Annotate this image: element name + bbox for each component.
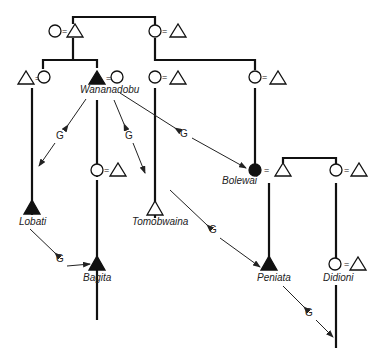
name-label-peniata: Peniata xyxy=(257,272,291,283)
arrow-line xyxy=(120,93,175,128)
couple-gen3-center: = xyxy=(91,163,126,176)
g-label: G xyxy=(180,128,188,139)
marriage-sign: = xyxy=(162,72,167,82)
couple-gen2-left: = xyxy=(18,71,50,84)
person-tomobwaina: Tomobwaina xyxy=(132,201,189,227)
female-circle-icon xyxy=(91,164,103,176)
female-circle-icon xyxy=(111,71,123,83)
g-link-wananadobu-tomobwaina: G xyxy=(114,100,145,173)
male-triangle-icon xyxy=(67,24,83,37)
kinship-diagram: = = = = Wananadobu = = xyxy=(0,0,387,361)
name-label-didioni: Didioni xyxy=(323,272,354,283)
sibling-line xyxy=(43,60,97,69)
female-circle-icon xyxy=(38,71,50,83)
female-circle-icon xyxy=(330,164,342,176)
person-bolewai: = Bolewai xyxy=(222,163,291,186)
sibling-line xyxy=(73,17,155,25)
male-filled-triangle-icon xyxy=(89,71,105,84)
name-label-bagita: Bagita xyxy=(83,272,112,283)
female-circle-icon xyxy=(49,25,61,37)
arrow-line xyxy=(68,99,86,125)
gap xyxy=(92,177,102,180)
person-wananadobu: = Wananadobu xyxy=(80,71,140,95)
couple-gen3-right: = xyxy=(330,163,367,176)
male-triangle-icon xyxy=(110,163,126,176)
marriage-sign: = xyxy=(62,26,67,36)
male-filled-triangle-icon xyxy=(24,200,40,214)
male-triangle-icon xyxy=(270,71,286,84)
male-triangle-icon xyxy=(351,163,367,176)
male-triangle-icon xyxy=(147,201,163,215)
marriage-sign: = xyxy=(344,165,349,175)
person-didioni: = Didioni xyxy=(323,257,366,283)
name-label-tomobwaina: Tomobwaina xyxy=(132,216,189,227)
male-filled-triangle-icon xyxy=(89,256,105,270)
male-filled-triangle-icon xyxy=(261,256,277,270)
marriage-sign: = xyxy=(104,165,109,175)
marriage-sign: = xyxy=(162,26,167,36)
name-label-bolewai: Bolewai xyxy=(222,175,258,186)
male-triangle-icon xyxy=(170,71,186,84)
g-label: G xyxy=(305,307,313,318)
arrow-line xyxy=(114,100,124,124)
marriage-sign: = xyxy=(264,165,269,175)
arrow-line xyxy=(283,286,304,307)
name-label-lobati: Lobati xyxy=(19,216,47,227)
male-triangle-icon xyxy=(170,24,186,37)
arrow-line xyxy=(39,143,55,166)
person-lobati: Lobati xyxy=(19,200,47,227)
g-label: G xyxy=(125,130,133,141)
arrow-line xyxy=(133,143,145,173)
male-triangle-icon xyxy=(18,71,34,84)
arrow-line xyxy=(192,138,246,168)
male-triangle-icon xyxy=(275,163,291,176)
g-link-peniata-descendant: G xyxy=(283,286,333,337)
g-label: G xyxy=(209,224,217,235)
couple-gen2-right: = xyxy=(249,71,286,84)
female-circle-icon xyxy=(149,25,161,37)
female-circle-icon xyxy=(149,71,161,83)
female-circle-icon xyxy=(249,71,261,83)
g-link-wananadobu-lobati: G xyxy=(39,99,86,166)
person-peniata: Peniata xyxy=(257,256,291,283)
g-label: G xyxy=(56,130,64,141)
arrow-line xyxy=(67,264,90,266)
couple-gen2-mid: = xyxy=(149,71,186,84)
name-label-wananadobu: Wananadobu xyxy=(80,84,140,95)
couple-top-left: = xyxy=(49,24,83,37)
couple-top-right: = xyxy=(149,24,186,37)
person-bagita: Bagita xyxy=(83,256,112,283)
marriage-sign: = xyxy=(262,72,267,82)
marriage-sign: = xyxy=(344,259,349,269)
arrow-line xyxy=(316,320,333,337)
g-label: G xyxy=(56,253,64,264)
g-link-lobati-bagita: G xyxy=(30,229,90,266)
sibling-line xyxy=(283,158,336,166)
arrow-line xyxy=(30,229,55,253)
arrow-line xyxy=(220,238,260,267)
female-circle-icon xyxy=(329,258,341,270)
male-triangle-icon xyxy=(350,257,366,270)
g-link-tomobwaina-peniata: G xyxy=(170,190,260,267)
sibling-line xyxy=(155,60,255,70)
